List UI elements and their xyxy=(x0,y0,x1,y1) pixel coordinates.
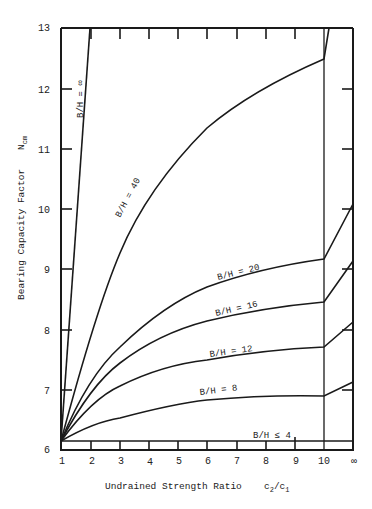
x-axis-label: Undrained Strength Ratio xyxy=(105,481,242,492)
label-bh-40: B/H = 40 xyxy=(114,177,143,220)
x-tick-1: 1 xyxy=(59,456,65,467)
x-tick-9: 9 xyxy=(293,456,299,467)
left-ticks xyxy=(61,89,72,390)
x-tick-2: 2 xyxy=(89,456,95,467)
x-tick-7: 7 xyxy=(234,456,240,467)
y-axis-label: Bearing Capacity Factor xyxy=(16,169,27,300)
y-axis-title: Bearing Capacity Factor Ncm xyxy=(16,136,29,300)
label-bh-8: B/H = 8 xyxy=(199,383,238,398)
curve-bh-12 xyxy=(61,322,353,441)
label-bh-4: B/H ≤ 4 xyxy=(253,431,291,441)
curves xyxy=(61,28,353,441)
y-axis-symbol: Ncm xyxy=(16,136,29,150)
y-tick-6: 6 xyxy=(44,445,50,456)
label-bh-infinity: B/H = ∞ xyxy=(76,80,86,118)
y-tick-9: 9 xyxy=(44,265,50,276)
x-tick-4: 4 xyxy=(147,457,153,468)
x-tick-10: 10 xyxy=(318,456,330,467)
curve-bh-40 xyxy=(61,28,329,441)
y-tick-labels: 6 7 8 9 10 11 12 13 xyxy=(38,23,50,456)
y-tick-12: 12 xyxy=(38,85,50,96)
y-tick-13: 13 xyxy=(38,23,50,34)
top-ticks xyxy=(91,28,295,39)
x-axis-title: Undrained Strength Ratio c2/c1 xyxy=(105,481,290,494)
y-tick-8: 8 xyxy=(44,326,50,337)
bearing-capacity-chart: 6 7 8 9 10 11 12 13 1 2 3 4 5 6 7 8 9 10… xyxy=(0,0,372,509)
label-bh-16: B/H = 16 xyxy=(214,299,258,318)
y-tick-11: 11 xyxy=(38,145,50,156)
x-tick-labels: 1 2 3 4 5 6 7 8 9 10 ∞ xyxy=(59,456,357,468)
label-bh-20: B/H = 20 xyxy=(216,263,260,283)
x-axis-symbol: c2/c1 xyxy=(264,481,290,494)
x-tick-infinity: ∞ xyxy=(351,456,357,467)
curve-labels: B/H = ∞ B/H = 40 B/H = 20 B/H = 16 B/H =… xyxy=(76,80,291,441)
y-tick-7: 7 xyxy=(44,386,50,397)
curve-bh-20 xyxy=(61,204,353,441)
y-tick-10: 10 xyxy=(38,205,50,216)
right-ticks xyxy=(342,89,353,390)
x-tick-3: 3 xyxy=(118,456,124,467)
curve-bh-16 xyxy=(61,261,353,441)
x-tick-5: 5 xyxy=(176,456,182,467)
label-bh-12: B/H = 12 xyxy=(209,344,253,360)
x-tick-6: 6 xyxy=(205,456,211,467)
x-tick-8: 8 xyxy=(263,456,269,467)
